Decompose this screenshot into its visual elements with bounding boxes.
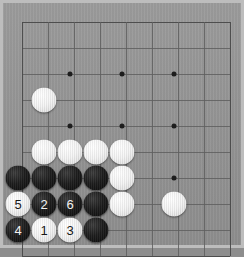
stone-black-e[interactable] [84, 192, 109, 217]
stone-black-f[interactable] [84, 218, 109, 243]
stone-white-f[interactable] [110, 166, 135, 191]
stone-move-number: 4 [14, 224, 21, 237]
stone-move-1[interactable]: 1 [32, 218, 57, 243]
stone-move-3[interactable]: 3 [58, 218, 83, 243]
stone-black-a[interactable] [6, 166, 31, 191]
stone-move-number: 1 [40, 224, 47, 237]
stone-move-5[interactable]: 5 [6, 192, 31, 217]
stone-move-number: 2 [40, 198, 47, 211]
stone-white-b[interactable] [32, 140, 57, 165]
stone-white-g[interactable] [110, 192, 135, 217]
stone-move-2[interactable]: 2 [32, 192, 57, 217]
stone-white-d[interactable] [84, 140, 109, 165]
stone-black-c[interactable] [58, 166, 83, 191]
stone-white-a[interactable] [32, 88, 57, 113]
stone-black-b[interactable] [32, 166, 57, 191]
stone-white-e[interactable] [110, 140, 135, 165]
stone-move-number: 3 [66, 224, 73, 237]
stone-white-h[interactable] [162, 192, 187, 217]
stone-move-4[interactable]: 4 [6, 218, 31, 243]
stone-move-number: 6 [66, 198, 73, 211]
stone-white-c[interactable] [58, 140, 83, 165]
stone-move-6[interactable]: 6 [58, 192, 83, 217]
stone-black-d[interactable] [84, 166, 109, 191]
stone-move-number: 5 [14, 198, 21, 211]
